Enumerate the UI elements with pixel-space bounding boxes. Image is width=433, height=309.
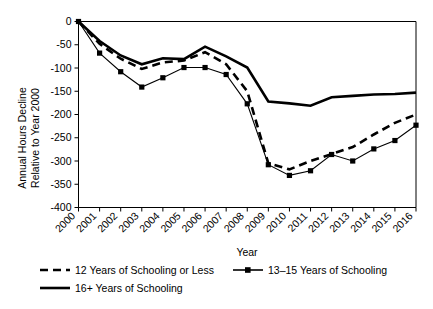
x-tick-label: 2011: [285, 209, 310, 234]
y-tick-label: -300: [50, 155, 71, 167]
legend-item: 12 Years of Schooling or Less: [40, 264, 214, 276]
data-point-marker: [97, 51, 102, 56]
x-tick-label: 2005: [158, 209, 183, 234]
y-tick-label: -100: [50, 62, 71, 74]
data-point-marker: [371, 146, 376, 151]
data-point-marker: [118, 69, 123, 74]
line-chart-canvas: Annual Hours Decline Relative to Year 20…: [0, 0, 433, 309]
data-point-marker: [202, 65, 207, 70]
legend-swatch-marker: [245, 267, 251, 273]
x-tick-label: 2014: [348, 209, 373, 234]
x-tick-label: 2003: [116, 209, 141, 234]
legend-item: 13–15 Years of Schooling: [233, 264, 387, 276]
x-axis-ticks: 2000200120022003200420052006200720082009…: [52, 208, 416, 235]
legend-label: 16+ Years of Schooling: [75, 282, 183, 294]
data-point-marker: [245, 101, 250, 106]
y-tick-label: 0: [66, 15, 72, 27]
data-point-marker: [392, 138, 397, 143]
legend-label: 13–15 Years of Schooling: [268, 264, 387, 276]
x-axis-title: Year: [236, 246, 258, 258]
x-tick-label: 2007: [200, 209, 225, 234]
y-tick-label: -150: [50, 85, 71, 97]
x-tick-label: 2016: [390, 209, 415, 234]
x-tick-label: 2008: [221, 209, 246, 234]
x-tick-label: 2015: [369, 209, 394, 234]
data-point-marker: [308, 168, 313, 173]
x-tick-label: 2004: [137, 209, 162, 234]
x-tick-label: 2013: [327, 209, 352, 234]
legend-label: 12 Years of Schooling or Less: [75, 264, 214, 276]
x-tick-label: 2002: [95, 209, 120, 234]
y-axis-title-line2: Relative to Year 2000: [29, 88, 41, 188]
data-point-marker: [224, 72, 229, 77]
data-point-marker: [181, 65, 186, 70]
data-point-marker: [266, 162, 271, 167]
series-line-2: [79, 22, 417, 176]
y-axis-ticks: 0-50-100-150-200-250-300-350-400: [50, 15, 78, 213]
y-tick-label: -250: [50, 131, 71, 143]
y-tick-label: -50: [56, 38, 71, 50]
x-tick-label: 2006: [179, 209, 204, 234]
data-point-marker: [160, 75, 165, 80]
data-point-marker: [287, 173, 292, 178]
data-point-marker: [329, 152, 334, 157]
y-tick-label: -200: [50, 108, 71, 120]
x-tick-label: 2001: [74, 209, 99, 234]
x-tick-label: 2009: [242, 209, 267, 234]
chart-figure: Annual Hours Decline Relative to Year 20…: [0, 0, 433, 309]
chart-legend: 12 Years of Schooling or Less13–15 Years…: [40, 264, 387, 294]
data-point-marker: [139, 84, 144, 89]
y-axis-title: Annual Hours Decline Relative to Year 20…: [16, 87, 41, 189]
data-point-marker: [413, 123, 418, 128]
legend-item: 16+ Years of Schooling: [40, 282, 183, 294]
x-tick-label: 2012: [306, 209, 331, 234]
y-tick-label: -350: [50, 178, 71, 190]
y-axis-title-line1: Annual Hours Decline: [16, 87, 28, 189]
series-layer: [76, 19, 419, 178]
x-tick-label: 2010: [263, 209, 288, 234]
plot-frame: [79, 22, 417, 208]
data-point-marker: [350, 158, 355, 163]
